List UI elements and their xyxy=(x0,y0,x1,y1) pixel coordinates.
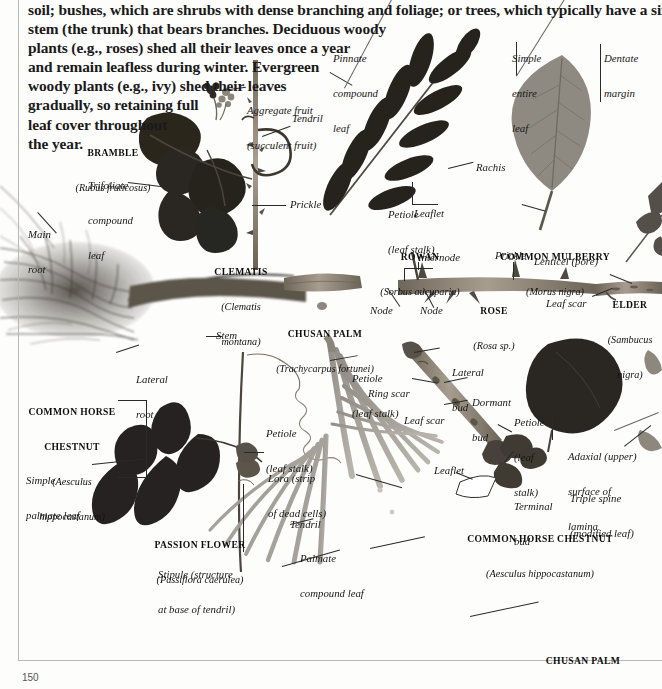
label-stipule: Stipule (structure at base of tendril) xyxy=(158,546,235,639)
label-simple-entire-line3: leaf xyxy=(512,123,541,135)
label-pinnate-line3: leaf xyxy=(333,123,378,135)
label-leaflet-hc: Leaflet xyxy=(434,465,464,477)
label-petiole-palm-line1: Petiole xyxy=(352,373,398,385)
label-tendril-passion: Tendril xyxy=(290,519,321,531)
label-triple-spine-line1: Triple spine xyxy=(570,493,634,505)
label-adaxial-line1: Adaxial (upper) xyxy=(568,451,637,463)
intro-line-1: soil; bushes, which are shrubs with dens… xyxy=(28,0,388,19)
label-aggregate-fruit: Aggregate fruit (succulent fruit) xyxy=(247,82,316,175)
label-lateral-root-line2: root xyxy=(136,409,168,421)
caption-hc-right-common: COMMON HORSE CHESTNUT xyxy=(440,533,640,545)
label-trifoliate-line1: Trifoliate xyxy=(88,180,133,192)
label-main-root-line2: root xyxy=(28,264,51,276)
label-tendril-bramble: Tendril xyxy=(292,113,323,125)
caption-elder-sci2: nigra) xyxy=(600,369,660,381)
caption-hc-right-scientific: (Aesculus hippocastanum) xyxy=(440,568,640,580)
label-trifoliate-line3: leaf xyxy=(88,250,133,262)
label-lateral-root-line1: Lateral xyxy=(136,374,168,386)
label-rachis: Rachis xyxy=(476,162,505,174)
label-ring-scar: Ring scar xyxy=(368,388,410,400)
caption-chusan-bottom-common: CHUSAN PALM xyxy=(512,655,654,667)
label-pinnate-line2: compound xyxy=(333,88,378,100)
label-aggregate-fruit-line2: (succulent fruit) xyxy=(247,140,316,152)
label-prickle-rose: Prickle xyxy=(495,250,526,262)
caption-horse-chestnut-right: COMMON HORSE CHESTNUT (Aesculus hippocas… xyxy=(440,510,640,603)
label-palmate-compound: Palmate compound leaf xyxy=(300,530,364,623)
page-canvas: soil; bushes, which are shrubs with dens… xyxy=(0,0,662,689)
label-simple-palmate-line2: palmate leaf xyxy=(26,510,80,522)
label-leaf-scar-hc: Leaf scar xyxy=(404,415,445,427)
label-palmate-compound-line2: compound leaf xyxy=(300,588,364,600)
leader-adaxial xyxy=(552,418,553,440)
leader-petiole-hc-left xyxy=(244,452,264,453)
caption-chusan-top-common: CHUSAN PALM xyxy=(258,328,392,340)
caption-elder-common: ELDER xyxy=(600,299,660,311)
label-trifoliate: Trifoliate compound leaf xyxy=(88,157,133,285)
leader-dentate xyxy=(600,44,601,102)
label-dentate-line2: margin xyxy=(604,88,638,100)
label-stem: Stem xyxy=(216,330,237,342)
label-main-root-line1: Main xyxy=(28,229,51,241)
label-stipule-line1: Stipule (structure xyxy=(158,569,235,581)
leader-prickle-clematis xyxy=(252,205,286,206)
label-simple-entire-line1: Simple xyxy=(512,53,541,65)
label-petiole-mulberry-line1: Petiole xyxy=(388,209,434,221)
caption-chusan-bottom: CHUSAN PALM (Trachycarpus fortunei) xyxy=(512,632,654,689)
caption-rose-common: ROSE xyxy=(458,305,530,317)
caption-hc-left-common2: CHESTNUT xyxy=(22,441,122,453)
label-petiole-hc-right-line2: (leaf xyxy=(514,452,545,464)
caption-clematis-common: CLEMATIS xyxy=(200,266,282,278)
label-dormant-bud-line2: bud xyxy=(472,432,511,444)
label-pinnate: Pinnate compound leaf xyxy=(333,30,378,158)
caption-elder-sci1: (Sambucus xyxy=(600,334,660,346)
label-simple-palmate: Simple palmate leaf xyxy=(26,452,80,545)
label-lateral-root: Lateral root xyxy=(136,351,168,444)
label-dentate-line1: Dentate xyxy=(604,53,638,65)
label-petiole-hc-right-line1: Petiole xyxy=(514,417,545,429)
label-prickle-clematis: Prickle xyxy=(290,199,321,211)
label-dentate-margin: Dentate margin xyxy=(604,30,638,123)
label-simple-palmate-line1: Simple xyxy=(26,475,80,487)
caption-elder: ELDER (Sambucus nigra) xyxy=(600,276,660,404)
page-number: 150 xyxy=(22,672,39,683)
label-lenticel: Lenticel (pore) xyxy=(534,256,598,268)
label-node-b: Node xyxy=(420,305,443,317)
label-trifoliate-line2: compound xyxy=(88,215,133,227)
label-internode: Internode xyxy=(418,252,460,264)
label-simple-entire: Simple entire leaf xyxy=(512,30,541,158)
label-lora-line1: Lora (strip xyxy=(268,473,326,485)
label-dormant-bud: Dormant bud xyxy=(472,374,511,467)
label-main-root: Main root xyxy=(28,206,51,299)
label-leaf-scar-elder: Leaf scar xyxy=(546,298,587,310)
label-stipule-line2: at base of tendril) xyxy=(158,604,235,616)
label-dormant-bud-line1: Dormant xyxy=(472,397,511,409)
caption-hc-left-common1: COMMON HORSE xyxy=(22,406,122,418)
label-petiole-palm-line2: (leaf stalk) xyxy=(352,408,398,420)
label-simple-entire-line2: entire xyxy=(512,88,541,100)
label-pinnate-line1: Pinnate xyxy=(333,53,378,65)
elder-leaf xyxy=(626,182,662,262)
left-margin-rule xyxy=(18,0,19,660)
label-petiole-hc-left-line1: Petiole xyxy=(266,428,312,440)
label-palmate-compound-line1: Palmate xyxy=(300,553,364,565)
